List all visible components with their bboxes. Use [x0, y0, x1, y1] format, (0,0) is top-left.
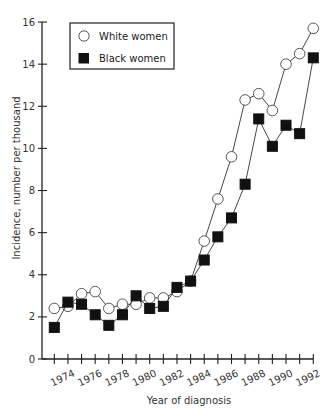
filled-square-marker-icon — [90, 310, 100, 320]
x-tick-label: 1984 — [185, 367, 213, 388]
x-tick-label: 1986 — [212, 367, 240, 388]
filled-square-marker-icon — [295, 129, 305, 139]
open-circle-marker-icon — [294, 48, 305, 59]
open-circle-marker-icon — [213, 194, 224, 205]
open-circle-marker-icon — [144, 293, 155, 304]
y-axis-title: Incidence, number per thousand — [11, 96, 22, 259]
x-tick-label: 1982 — [158, 367, 186, 388]
y-tick-label: 6 — [29, 227, 35, 238]
x-tick-label: 1974 — [49, 367, 77, 388]
y-tick-label: 16 — [22, 17, 35, 28]
open-circle-marker-icon — [104, 303, 115, 314]
x-tick-label: 1976 — [76, 367, 104, 388]
filled-square-marker-icon — [267, 141, 277, 151]
open-circle-marker-icon — [240, 95, 251, 106]
y-tick-label: 10 — [22, 143, 35, 154]
open-circle-marker-icon — [308, 23, 319, 34]
legend-white-marker-icon — [79, 31, 89, 41]
y-tick-label: 12 — [22, 101, 35, 112]
y-ticks: 0246810121416 — [22, 17, 47, 365]
open-circle-marker-icon — [199, 236, 210, 247]
filled-square-marker-icon — [308, 53, 318, 63]
x-tick-label: 1988 — [239, 367, 267, 388]
legend-white-label: White women — [99, 31, 168, 42]
filled-square-marker-icon — [145, 303, 155, 313]
filled-square-marker-icon — [213, 232, 223, 242]
legend-black-marker-icon — [79, 54, 89, 64]
filled-square-marker-icon — [199, 255, 209, 265]
x-tick-label: 1992 — [294, 367, 322, 388]
y-tick-label: 14 — [22, 59, 35, 70]
filled-square-marker-icon — [63, 297, 73, 307]
open-circle-marker-icon — [281, 59, 292, 70]
y-tick-label: 0 — [29, 354, 35, 365]
open-circle-marker-icon — [267, 105, 278, 116]
filled-square-marker-icon — [49, 322, 59, 332]
filled-square-marker-icon — [254, 114, 264, 124]
filled-square-marker-icon — [117, 310, 127, 320]
x-tick-label: 1990 — [267, 367, 295, 388]
line-chart: 0246810121416 19741976197819801982198419… — [0, 0, 331, 418]
open-circle-marker-icon — [90, 286, 101, 297]
open-circle-marker-icon — [117, 299, 128, 310]
legend-black-label: Black women — [99, 53, 166, 64]
series-line — [54, 28, 313, 308]
filled-square-marker-icon — [131, 291, 141, 301]
y-tick-label: 8 — [29, 185, 35, 196]
open-circle-marker-icon — [226, 152, 237, 163]
open-circle-marker-icon — [253, 88, 264, 99]
axes: 0246810121416 19741976197819801982198419… — [22, 17, 321, 389]
filled-square-marker-icon — [281, 120, 291, 130]
filled-square-marker-icon — [226, 213, 236, 223]
legend: White women Black women — [70, 23, 174, 69]
filled-square-marker-icon — [104, 320, 114, 330]
filled-square-marker-icon — [240, 179, 250, 189]
y-tick-label: 2 — [29, 311, 35, 322]
open-circle-marker-icon — [76, 288, 87, 299]
filled-square-marker-icon — [172, 282, 182, 292]
x-axis-title: Year of diagnosis — [146, 395, 231, 406]
filled-square-marker-icon — [77, 299, 87, 309]
filled-square-marker-icon — [186, 276, 196, 286]
open-circle-marker-icon — [49, 303, 60, 314]
filled-square-marker-icon — [158, 301, 168, 311]
y-tick-label: 4 — [29, 269, 35, 280]
x-tick-label: 1980 — [130, 367, 158, 388]
x-tick-label: 1978 — [103, 367, 131, 388]
